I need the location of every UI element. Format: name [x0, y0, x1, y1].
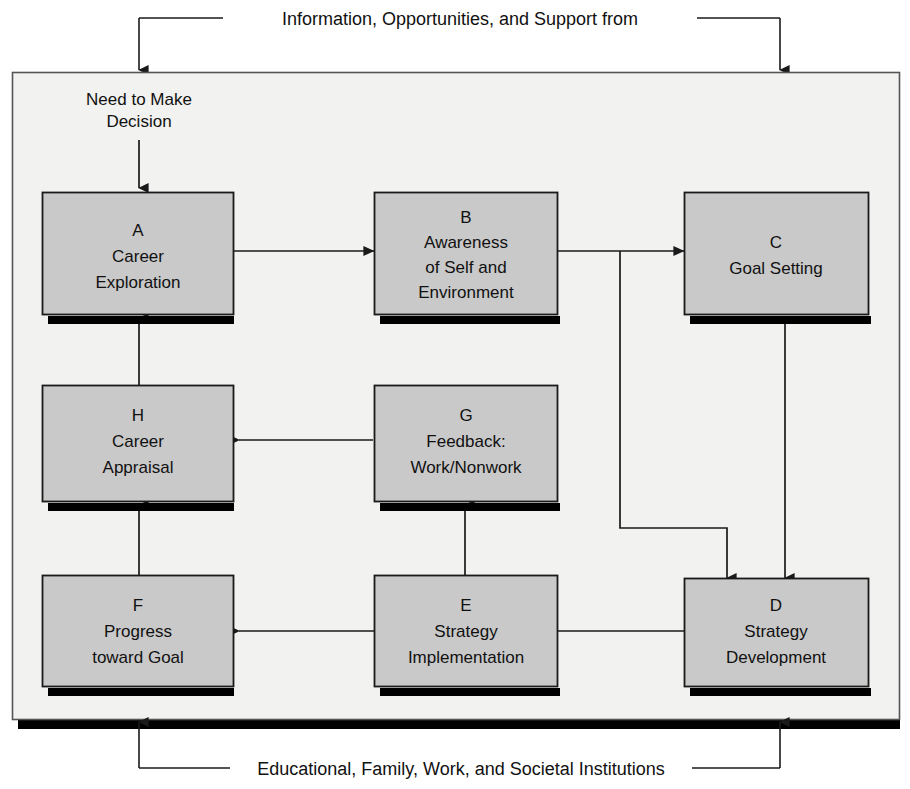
- box-D-shadow: [690, 688, 871, 696]
- diagram-canvas: Information, Opportunities, and Support …: [0, 0, 910, 789]
- box-E-shadow: [380, 688, 560, 696]
- box-B-line1: Awareness: [424, 233, 508, 252]
- box-A-shadow: [48, 316, 234, 324]
- box-F-line1: Progress: [104, 622, 172, 641]
- box-C-line1: Goal Setting: [729, 259, 823, 278]
- entry-label-line2: Decision: [106, 112, 171, 131]
- box-G-letter: G: [459, 406, 472, 425]
- box-C-body: [685, 193, 869, 315]
- process-box-H[interactable]: H Career Appraisal: [43, 386, 235, 512]
- box-G-line1: Feedback:: [426, 432, 505, 451]
- entry-label-line1: Need to Make: [86, 90, 192, 109]
- box-F-line2: toward Goal: [92, 648, 184, 667]
- process-box-C[interactable]: C Goal Setting: [685, 193, 872, 325]
- box-A-letter: A: [132, 221, 144, 240]
- box-A-line2: Exploration: [95, 273, 180, 292]
- process-box-A[interactable]: A Career Exploration: [43, 193, 235, 325]
- top-environment-label: Information, Opportunities, and Support …: [282, 9, 638, 29]
- box-F-shadow: [48, 688, 234, 696]
- box-B-letter: B: [460, 208, 471, 227]
- box-G-line2: Work/Nonwork: [410, 458, 522, 477]
- process-box-F[interactable]: F Progress toward Goal: [43, 576, 235, 697]
- box-D-letter: D: [770, 596, 782, 615]
- box-D-line2: Development: [726, 648, 826, 667]
- box-A-line1: Career: [112, 247, 164, 266]
- frame-shadow: [18, 720, 900, 729]
- box-E-line2: Implementation: [408, 648, 524, 667]
- box-C-letter: C: [770, 233, 782, 252]
- box-C-shadow: [690, 316, 871, 324]
- box-B-line3: Environment: [418, 283, 514, 302]
- career-development-flow-diagram: Information, Opportunities, and Support …: [0, 0, 910, 789]
- box-B-line2: of Self and: [425, 258, 506, 277]
- box-H-letter: H: [132, 406, 144, 425]
- box-F-letter: F: [133, 596, 143, 615]
- process-box-G[interactable]: G Feedback: Work/Nonwork: [375, 386, 561, 512]
- box-G-shadow: [380, 503, 560, 511]
- box-B-shadow: [380, 316, 560, 324]
- box-H-line1: Career: [112, 432, 164, 451]
- bottom-institutions-label: Educational, Family, Work, and Societal …: [257, 759, 665, 779]
- box-H-shadow: [48, 503, 234, 511]
- box-E-letter: E: [460, 596, 471, 615]
- box-H-line2: Appraisal: [103, 458, 174, 477]
- box-E-line1: Strategy: [434, 622, 498, 641]
- process-box-E[interactable]: E Strategy Implementation: [375, 576, 561, 697]
- process-box-B[interactable]: B Awareness of Self and Environment: [375, 193, 561, 325]
- box-D-line1: Strategy: [744, 622, 808, 641]
- process-box-D[interactable]: D Strategy Development: [685, 579, 872, 697]
